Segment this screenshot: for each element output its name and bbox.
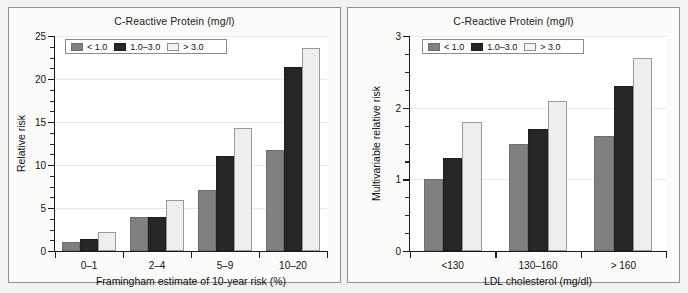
figure-canvas: C-Reactive Protein (mg/l) Relative risk … <box>0 0 688 293</box>
y-tick-minor <box>50 154 54 155</box>
legend-label: > 3.0 <box>540 42 560 52</box>
bar <box>424 179 443 251</box>
bar <box>166 200 184 251</box>
chart-title-right: C-Reactive Protein (mg/l) <box>348 15 679 27</box>
legend-item: > 3.0 <box>167 42 203 52</box>
legend-label: 1.0–3.0 <box>130 42 160 52</box>
bar <box>216 156 234 251</box>
legend-swatch <box>71 43 83 51</box>
x-tick <box>666 252 667 258</box>
chart-panel-right: C-Reactive Protein (mg/l) Multivariable … <box>347 7 680 283</box>
x-tick <box>410 252 411 258</box>
y-tick-label: 5 <box>15 203 46 214</box>
legend-label: < 1.0 <box>87 42 107 52</box>
y-tick-minor <box>50 144 54 145</box>
x-tick-label: <130 <box>410 260 495 271</box>
y-tick-major <box>403 36 409 37</box>
y-tick-label: 15 <box>15 117 46 128</box>
x-tick-label: 5–9 <box>191 260 259 271</box>
y-tick-major <box>48 36 54 37</box>
y-tick-label: 20 <box>15 74 46 85</box>
y-tick-minor <box>405 90 409 91</box>
bar <box>633 58 652 252</box>
y-axis-label-left: Relative risk <box>15 36 27 251</box>
y-axis-label-right: Multivariable relative risk <box>370 36 382 251</box>
legend-label: > 3.0 <box>183 42 203 52</box>
y-tick-major <box>48 122 54 123</box>
legend-item: < 1.0 <box>71 42 107 52</box>
plot-area-left <box>55 36 327 251</box>
y-tick-minor <box>50 58 54 59</box>
y-tick-minor <box>405 161 409 162</box>
x-axis-line <box>409 251 667 252</box>
bar <box>548 101 567 252</box>
y-tick-minor <box>50 230 54 231</box>
y-tick-major <box>48 251 54 252</box>
y-tick-major <box>403 179 409 180</box>
legend-label: < 1.0 <box>444 42 464 52</box>
y-tick-minor <box>50 187 54 188</box>
y-tick-minor <box>50 111 54 112</box>
legend-item: 1.0–3.0 <box>114 42 160 52</box>
bar <box>462 122 481 251</box>
x-axis-label-right: LDL cholesterol (mg/dl) <box>410 275 666 287</box>
x-tick-label: 130–160 <box>495 260 580 271</box>
chart-title-left: C-Reactive Protein (mg/l) <box>9 15 340 27</box>
legend-item: 1.0–3.0 <box>471 42 517 52</box>
x-tick-label: > 160 <box>581 260 666 271</box>
legend-item: > 3.0 <box>524 42 560 52</box>
y-tick-minor <box>50 240 54 241</box>
y-tick-minor <box>405 233 409 234</box>
bar <box>594 136 613 251</box>
x-tick <box>123 252 124 258</box>
x-tick-label: 2–4 <box>123 260 191 271</box>
bar <box>284 67 302 251</box>
bar <box>302 48 320 251</box>
y-tick-minor <box>50 219 54 220</box>
y-tick-major <box>403 251 409 252</box>
bar <box>198 190 216 251</box>
y-tick-minor <box>50 47 54 48</box>
bar <box>80 239 98 251</box>
x-tick-label: 0–1 <box>55 260 123 271</box>
x-tick <box>495 252 496 258</box>
y-tick-minor <box>50 133 54 134</box>
y-tick-minor <box>405 215 409 216</box>
y-tick-minor <box>405 126 409 127</box>
legend-label: 1.0–3.0 <box>487 42 517 52</box>
legend-swatch <box>524 43 536 51</box>
x-tick <box>259 252 260 258</box>
y-tick-label: 2 <box>370 102 401 113</box>
bar <box>62 242 80 251</box>
y-tick-minor <box>50 197 54 198</box>
legend-swatch <box>167 43 179 51</box>
legend-swatch <box>114 43 126 51</box>
x-axis-label-left: Framingham estimate of 10-year risk (%) <box>55 275 327 287</box>
y-axis-line <box>54 36 55 252</box>
y-tick-minor <box>50 90 54 91</box>
y-tick-label: 0 <box>370 246 401 257</box>
y-tick-minor <box>405 144 409 145</box>
legend-left: < 1.01.0–3.0> 3.0 <box>65 39 227 54</box>
y-tick-major <box>48 79 54 80</box>
y-tick-minor <box>50 176 54 177</box>
plot-area-right <box>410 36 666 251</box>
y-tick-label: 1 <box>370 174 401 185</box>
y-tick-minor <box>405 72 409 73</box>
x-tick-label: 10–20 <box>259 260 327 271</box>
bar <box>443 158 462 251</box>
gridline <box>55 36 327 37</box>
legend-swatch <box>428 43 440 51</box>
y-tick-minor <box>405 54 409 55</box>
y-tick-major <box>48 208 54 209</box>
y-tick-label: 10 <box>15 160 46 171</box>
x-tick <box>327 252 328 258</box>
bar <box>614 86 633 251</box>
x-tick <box>55 252 56 258</box>
bar <box>234 128 252 251</box>
y-tick-label: 25 <box>15 31 46 42</box>
y-tick-label: 3 <box>370 31 401 42</box>
bar <box>148 217 166 251</box>
y-tick-major <box>48 165 54 166</box>
y-tick-minor <box>405 197 409 198</box>
